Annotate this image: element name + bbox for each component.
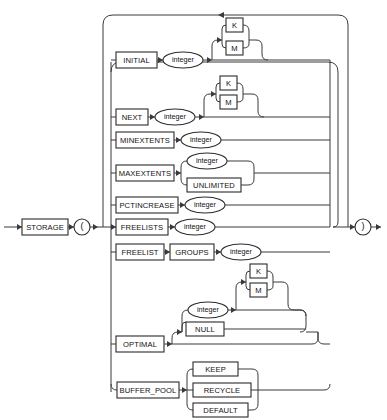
keyword-label-buffer-pool: BUFFER_POOL xyxy=(120,386,177,395)
option-row-optimal[interactable]: OPTIMAL integer K M NULL xyxy=(111,264,330,352)
open-paren-terminal[interactable]: ( xyxy=(69,219,98,235)
keyword-label-minextents: MINEXTENTS xyxy=(120,136,170,145)
terminal-label-initial-k: K xyxy=(232,21,237,30)
argument-label-initial-integer: integer xyxy=(172,55,195,64)
terminal-label-optimal-m: M xyxy=(255,286,261,295)
terminal-label-initial-m: M xyxy=(231,44,237,53)
storage-clause-railroad-diagram: INITIAL integer K M NEXT integer xyxy=(0,0,387,420)
choice-label-buffer-pool-keep: KEEP xyxy=(205,365,226,374)
keyword-label-optimal: OPTIMAL xyxy=(123,340,157,349)
terminal-label-next-k: K xyxy=(226,79,231,88)
choice-label-optimal-null: NULL xyxy=(195,325,215,334)
open-paren-label: ( xyxy=(81,221,84,231)
argument-label-freelists-integer: integer xyxy=(184,222,207,231)
option-row-minextents[interactable]: MINEXTENTS integer xyxy=(111,132,330,148)
keyword-label-freelists: FREELISTS xyxy=(121,223,163,232)
choice-label-optimal-integer: integer xyxy=(197,305,220,314)
choice-label-maxextents-unlimited: UNLIMITED xyxy=(193,181,235,190)
argument-label-pctincrease-integer: integer xyxy=(194,200,217,209)
keyword-label-initial: INITIAL xyxy=(123,56,149,65)
choice-label-buffer-pool-recycle: RECYCLE xyxy=(204,386,241,395)
argument-label-minextents-integer: integer xyxy=(190,135,213,144)
close-paren-label: ) xyxy=(362,221,365,231)
choice-label-buffer-pool-default: DEFAULT xyxy=(203,406,238,415)
keyword-label-freelist: FREELIST xyxy=(121,248,158,257)
keyword-label-pctincrease: PCTINCREASE xyxy=(119,201,174,210)
argument-label-next-integer: integer xyxy=(164,112,187,121)
keyword-label-storage: STORAGE xyxy=(26,223,64,232)
option-row-pctincrease[interactable]: PCTINCREASE integer xyxy=(111,197,330,213)
keyword-label-maxextents: MAXEXTENTS xyxy=(119,169,171,178)
option-row-buffer-pool[interactable]: BUFFER_POOL KEEP RECYCLE DEFAULT xyxy=(111,362,330,417)
option-row-freelist-groups[interactable]: FREELIST GROUPS integer xyxy=(111,244,330,260)
argument-label-freelist-groups-integer: integer xyxy=(230,247,253,256)
rail-lines xyxy=(4,12,355,392)
option-row-maxextents[interactable]: MAXEXTENTS integer UNLIMITED xyxy=(111,153,330,192)
choice-label-maxextents-integer: integer xyxy=(196,156,219,165)
terminal-label-optimal-k: K xyxy=(256,267,261,276)
keyword-label-groups: GROUPS xyxy=(175,248,209,257)
keyword-label-next: NEXT xyxy=(122,113,143,122)
close-paren-terminal[interactable]: ) xyxy=(350,219,381,235)
option-row-freelists[interactable]: FREELISTS integer xyxy=(111,219,330,235)
option-row-initial[interactable]: INITIAL integer K M xyxy=(111,18,330,68)
terminal-label-next-m: M xyxy=(225,98,231,107)
entry-terminal-storage[interactable]: STORAGE xyxy=(17,219,68,235)
option-row-next[interactable]: NEXT integer K M xyxy=(111,76,330,125)
